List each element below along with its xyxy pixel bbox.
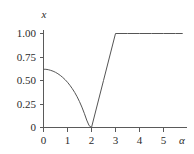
x-tick-label-2: 2 xyxy=(89,134,95,146)
y-axis-title: x xyxy=(41,8,47,20)
x-tick-label-5: 5 xyxy=(161,134,167,146)
x-tick-label-0: 0 xyxy=(41,134,47,146)
y-tick-label-0.50: 0.50 xyxy=(17,74,37,86)
x-tick-label-1: 1 xyxy=(65,134,71,146)
y-tick-label-0.75: 0.75 xyxy=(17,51,37,63)
x-tick-label-4: 4 xyxy=(137,134,143,146)
x-tick-label-3: 3 xyxy=(113,134,119,146)
y-tick-label-1.00: 1.00 xyxy=(17,27,37,39)
x-axis-title: α xyxy=(179,134,185,146)
chart-figure: 1.00 0.75 0.50 0.25 0 0 1 2 3 4 5 x α xyxy=(0,0,194,154)
line-chart: 1.00 0.75 0.50 0.25 0 0 1 2 3 4 5 x α xyxy=(0,0,194,154)
y-tick-label-0: 0 xyxy=(31,121,37,133)
y-tick-label-0.25: 0.25 xyxy=(17,98,37,110)
